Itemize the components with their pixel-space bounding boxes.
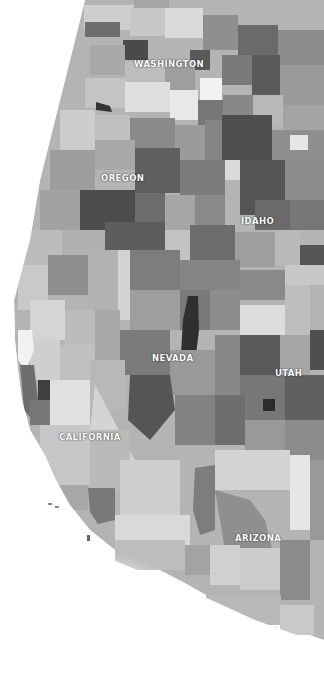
state-label-washington: WASHINGTON: [134, 59, 204, 69]
state-label-idaho: IDAHO: [241, 216, 274, 226]
choropleth-map: [0, 0, 324, 680]
state-label-nevada: NEVADA: [152, 353, 194, 363]
island: [55, 506, 59, 508]
state-label-california: CALIFORNIA: [59, 432, 121, 442]
island: [48, 503, 52, 505]
state-label-arizona: ARIZONA: [235, 533, 281, 543]
state-label-utah: UTAH: [275, 368, 302, 378]
state-label-oregon: OREGON: [101, 173, 144, 183]
island: [87, 535, 90, 541]
